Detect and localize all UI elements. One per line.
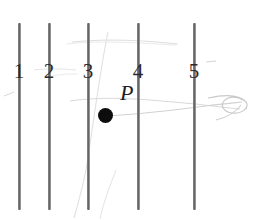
vertical-line-5 (193, 23, 196, 210)
vertical-line-2 (48, 23, 51, 210)
vertical-line-1 (18, 23, 21, 210)
line-label-4: 4 (128, 61, 148, 82)
line-label-2: 2 (39, 61, 59, 82)
line-label-3: 3 (78, 61, 98, 82)
line-label-5: 5 (184, 61, 204, 82)
figure-canvas: 1 2 3 4 5 P (0, 0, 256, 220)
point-p-label: P (120, 82, 133, 104)
vertical-line-3 (87, 23, 90, 210)
point-p-dot (98, 108, 113, 123)
vertical-line-4 (137, 23, 140, 210)
sketch-marks-layer (0, 0, 256, 220)
line-label-1: 1 (9, 61, 29, 82)
